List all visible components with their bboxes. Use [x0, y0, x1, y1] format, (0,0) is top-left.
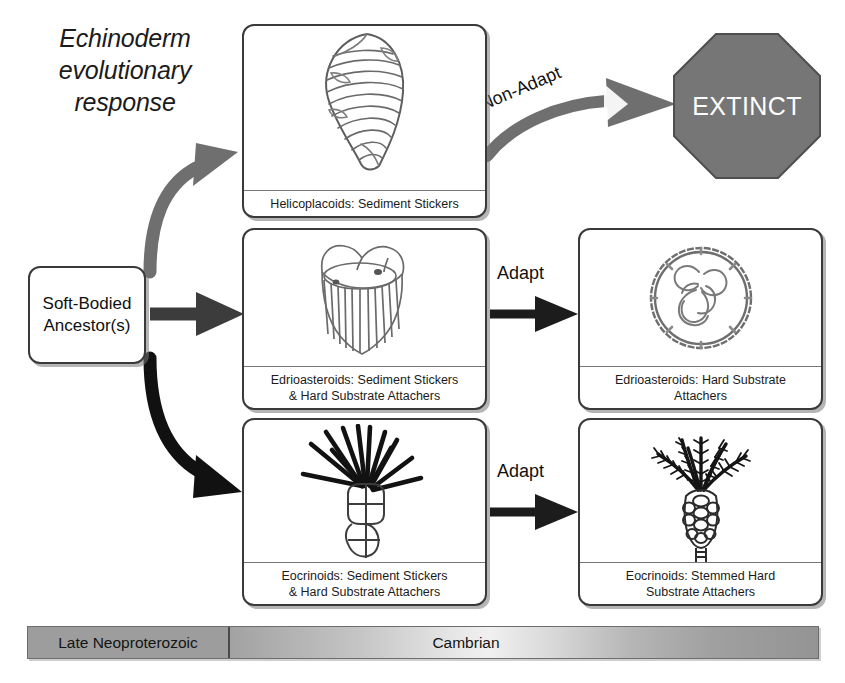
edrioasteroid-sediment-sticker-icon — [300, 236, 430, 358]
taxon-box-helicoplacoids[interactable]: Helicoplacoids: Sediment Stickers — [242, 24, 487, 218]
taxon-caption-edrioasteroids-left: Edrioasteroids: Sediment Stickers & Hard… — [244, 366, 485, 408]
timeline-bar: Late Neoproterozoic Cambrian — [27, 626, 819, 659]
page-title: Echinoderm evolutionary response — [30, 22, 220, 118]
timeline-label-cambrian: Cambrian — [432, 634, 499, 652]
arrow-adapt-eocrinoids — [490, 494, 578, 530]
ancestor-label: Soft-Bodied Ancestor(s) — [43, 293, 132, 337]
ancestor-box[interactable]: Soft-Bodied Ancestor(s) — [28, 266, 146, 364]
taxon-box-edrioasteroids-left[interactable]: Edrioasteroids: Sediment Stickers & Hard… — [242, 228, 487, 410]
arrow-label-non-adapt: Non-Adapt — [477, 62, 564, 115]
eocrinoid-stemmed-icon — [626, 424, 776, 562]
taxon-box-eocrinoids-left[interactable]: Eocrinoids: Sediment Stickers & Hard Sub… — [242, 418, 487, 606]
timeline-segment-late-neoproterozoic: Late Neoproterozoic — [28, 627, 230, 658]
eocrinoid-sediment-sticker-icon — [290, 424, 440, 562]
taxon-caption-edrioasteroids-right: Edrioasteroids: Hard Substrate Attachers — [580, 366, 821, 408]
timeline-label-late-neoproterozoic: Late Neoproterozoic — [58, 634, 198, 652]
helicoplacoid-spiral-icon — [295, 26, 435, 176]
arrow-adapt-edrioasteroids — [490, 296, 578, 332]
arrow-label-adapt-bottom: Adapt — [497, 461, 544, 482]
eocrinoid-stemmed-organism-art — [580, 420, 821, 562]
edrioasteroid-sediment-sticker-organism-art — [244, 230, 485, 366]
arrow-ancestor-to-eocrinoids — [150, 358, 242, 498]
taxon-caption-eocrinoids-left: Eocrinoids: Sediment Stickers & Hard Sub… — [244, 562, 485, 604]
extinct-octagon[interactable] — [672, 32, 822, 180]
taxon-box-eocrinoids-right[interactable]: Eocrinoids: Stemmed Hard Substrate Attac… — [578, 418, 823, 606]
arrow-ancestor-to-edrioasteroids — [150, 292, 244, 336]
helicoplacoid-spiral-organism-art — [244, 26, 485, 190]
taxon-caption-helicoplacoids: Helicoplacoids: Sediment Stickers — [244, 190, 485, 216]
arrow-label-adapt-top: Adapt — [497, 263, 544, 284]
edrioasteroid-disc-organism-art — [580, 230, 821, 366]
edrioasteroid-disc-icon — [636, 236, 766, 361]
arrow-ancestor-to-helicoplacoids — [150, 143, 238, 272]
taxon-box-edrioasteroids-right[interactable]: Edrioasteroids: Hard Substrate Attachers — [578, 228, 823, 410]
diagram-canvas: Echinoderm evolutionary response — [0, 0, 845, 683]
timeline-segment-cambrian: Cambrian — [230, 627, 818, 658]
taxon-caption-eocrinoids-right: Eocrinoids: Stemmed Hard Substrate Attac… — [580, 562, 821, 604]
eocrinoid-sediment-sticker-organism-art — [244, 420, 485, 562]
